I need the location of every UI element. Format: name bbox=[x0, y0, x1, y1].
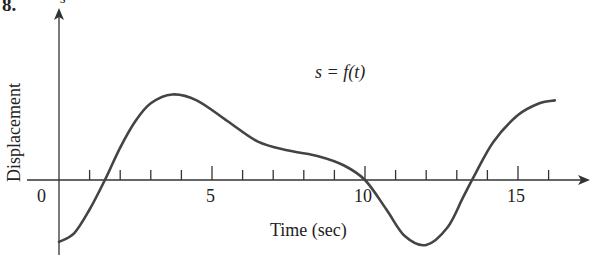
displacement-curve bbox=[59, 94, 555, 245]
chart-plot bbox=[0, 0, 598, 260]
